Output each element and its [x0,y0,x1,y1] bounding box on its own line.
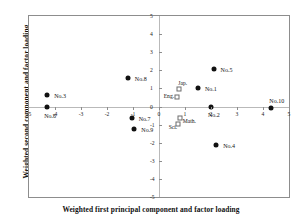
y-tick-label: 4 [150,31,153,37]
x-tick-label: -5 [27,111,32,117]
x-tick [185,107,186,110]
x-tick-label: 0 [158,111,161,117]
data-point-label-no5: No.5 [221,67,233,73]
x-tick-label: -1 [131,111,136,117]
x-tick [55,107,56,110]
y-tick [159,143,162,144]
x-tick [133,107,134,110]
x-tick [107,107,108,110]
data-point-no6 [45,104,50,109]
y-tick-label: -1 [150,122,155,128]
data-point-no8 [125,75,130,80]
y-tick-label: 5 [150,13,153,19]
y-tick [159,34,162,35]
scatter-plot-figure: Weighted second component and factor loa… [0,0,302,224]
data-point-label-sci: Sci. [169,124,178,130]
data-point-no9 [132,126,137,131]
y-tick-label: 1 [150,85,153,91]
data-point-no3 [45,93,50,98]
data-point-label-no7: No.7 [139,116,151,122]
y-tick-label: -5 [150,194,155,200]
y-tick [159,88,162,89]
x-tick-label: 4 [262,111,265,117]
data-point-no4 [214,142,219,147]
y-tick [159,179,162,180]
data-point-math [177,115,182,120]
x-tick [81,107,82,110]
x-tick [263,107,264,110]
data-point-label-no3: No.3 [54,93,66,99]
data-point-label-no10: No.10 [269,98,284,104]
y-tick-label: -4 [150,176,155,182]
data-point-label-no8: No.8 [135,76,147,82]
y-tick [159,107,162,108]
x-tick [237,107,238,110]
x-tick-label: 5 [288,111,291,117]
data-point-eng [174,95,179,100]
data-point-no1 [196,86,201,91]
data-point-label-eng: Eng. [164,93,174,99]
data-point-no10 [269,106,274,111]
data-point-label-jap: Jap. [178,80,187,86]
x-tick-label: -2 [105,111,110,117]
y-tick-label: 0 [150,104,153,110]
y-tick [159,161,162,162]
data-point-label-no1: No.1 [205,86,217,92]
data-point-no5 [211,66,216,71]
y-tick-label: -2 [150,140,155,146]
x-tick-label: 3 [236,111,239,117]
x-axis-label: Weighted first principal component and f… [0,205,302,214]
x-tick [211,107,212,110]
data-point-jap [177,87,182,92]
y-tick-label: 2 [150,67,153,73]
y-tick [159,52,162,53]
data-point-label-math: Math. [183,118,196,124]
data-point-label-no4: No.4 [223,143,235,149]
y-tick [159,125,162,126]
x-tick-label: 1 [184,111,187,117]
x-tick-label: -3 [79,111,84,117]
x-tick-label: 2 [210,111,213,117]
plot-area: No.1No.2No.3No.4No.5No.6No.7No.8No.9No.1… [28,15,290,198]
y-tick-label: -3 [150,158,155,164]
y-tick-label: 3 [150,49,153,55]
x-tick-label: -4 [53,111,58,117]
y-tick [159,70,162,71]
